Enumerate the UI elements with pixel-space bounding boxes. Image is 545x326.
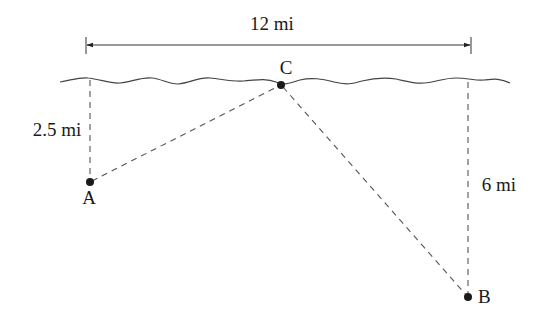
point-a <box>86 178 94 186</box>
distance-label-a: 2.5 mi <box>33 119 82 140</box>
shoreline <box>60 78 510 84</box>
dimension-12mi: 12 mi <box>86 13 471 54</box>
a-to-c-line <box>92 86 279 181</box>
point-b-label: B <box>478 286 491 307</box>
c-to-b-line <box>283 87 466 295</box>
shore-distance-diagram: 12 mi A B C 2.5 mi 6 mi <box>0 0 545 326</box>
point-b <box>464 293 472 301</box>
dim-label-12mi: 12 mi <box>250 13 294 34</box>
point-a-label: A <box>82 187 96 208</box>
point-c <box>277 81 285 89</box>
distance-label-b: 6 mi <box>482 174 516 195</box>
point-c-label: C <box>280 57 293 78</box>
